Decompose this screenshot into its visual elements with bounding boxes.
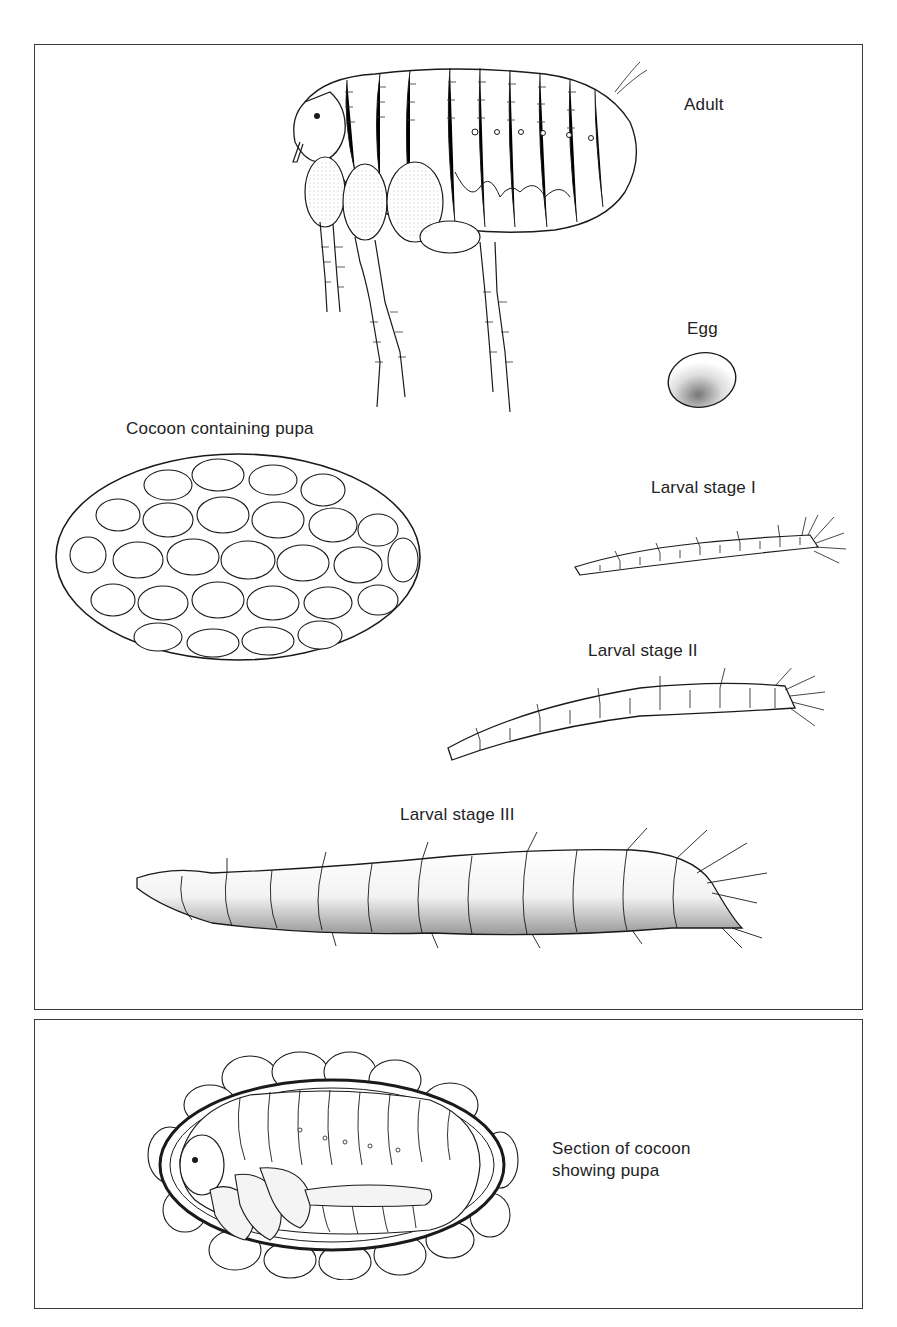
label-larval-stage-3: Larval stage III [400, 804, 515, 825]
label-section-line2: showing pupa [552, 1160, 659, 1181]
egg-illustration [664, 350, 744, 412]
cocoon-illustration [48, 445, 433, 670]
larval-stage-1-illustration [570, 505, 850, 580]
label-adult: Adult [684, 94, 724, 115]
label-cocoon: Cocoon containing pupa [126, 418, 314, 439]
larval-stage-3-illustration [132, 828, 812, 958]
adult-flea-illustration [285, 62, 665, 422]
label-larval-stage-2: Larval stage II [588, 640, 698, 661]
label-larval-stage-1: Larval stage I [651, 477, 756, 498]
larval-stage-2-illustration [440, 668, 840, 763]
label-section-line1: Section of cocoon [552, 1138, 691, 1159]
cocoon-section-illustration [140, 1050, 525, 1280]
label-egg: Egg [687, 318, 718, 339]
